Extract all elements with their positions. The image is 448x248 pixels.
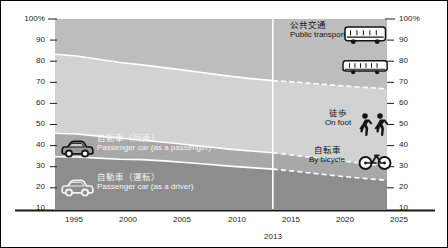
annotation-passenger-car-driver: 自動車（運転） Passenger car (as a driver) [97,173,193,191]
y-left-tick-100: 100% [9,15,45,23]
x-tick-1995: 1995 [54,216,94,224]
y-left-tick-10: 10 [9,204,45,212]
annotation-passenger-car-passenger: 自動車（同乗） Passenger car (as a passenger) [97,134,211,152]
y-right-tick-70: 70 [399,78,439,86]
annotation-passenger-car-driver-en: Passenger car (as a driver) [97,183,193,192]
annotation-by-bicycle: 自転車 By bicycle [298,146,356,164]
annotation-on-foot: 徒歩 On foot [312,109,364,127]
x-tick-2020: 2020 [325,216,365,224]
y-left-tick-60: 60 [9,99,45,107]
y-left-tick-70: 70 [9,78,45,86]
y-left-tick-90: 90 [9,36,45,44]
y-left-tick-50: 50 [9,120,45,128]
y-right-tick-90: 90 [399,36,439,44]
stacked-area-plot [1,1,448,248]
x-tick-2005: 2005 [162,216,202,224]
y-left-tick-40: 40 [9,141,45,149]
annotation-public-transport-en: Public transport [290,31,346,40]
x-tick-2025: 2025 [379,216,419,224]
y-left-tick-30: 30 [9,162,45,170]
chart-figure: 100% 90 80 70 60 50 40 30 20 10 100% 90 … [0,0,448,248]
y-right-tick-40: 40 [399,141,439,149]
y-right-tick-100: 100% [399,15,439,23]
annotation-passenger-car-passenger-en: Passenger car (as a passenger) [97,144,211,153]
y-left-tick-80: 80 [9,57,45,65]
divider-year-label: 2013 [253,232,293,241]
x-tick-2010: 2010 [217,216,257,224]
y-left-tick-20: 20 [9,183,45,191]
annotation-on-foot-en: On foot [312,119,364,128]
y-right-tick-80: 80 [399,57,439,65]
y-right-tick-60: 60 [399,99,439,107]
annotation-by-bicycle-en: By bicycle [298,156,356,165]
y-right-tick-30: 30 [399,162,439,170]
annotation-public-transport: 公共交通 Public transport [290,21,346,39]
y-right-tick-20: 20 [399,183,439,191]
x-tick-2015: 2015 [271,216,311,224]
y-right-tick-10: 10 [399,204,439,212]
y-right-tick-50: 50 [399,120,439,128]
x-tick-2000: 2000 [108,216,148,224]
